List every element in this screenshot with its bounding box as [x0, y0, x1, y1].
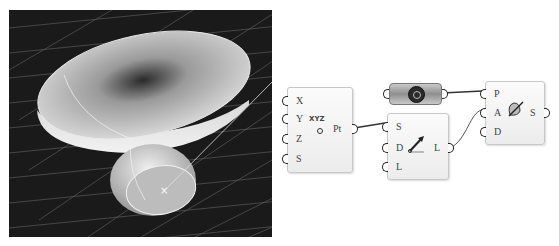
- input-grip-x[interactable]: [282, 96, 288, 106]
- input-grip-s[interactable]: [282, 154, 288, 164]
- hexagon-nut-icon: [408, 86, 425, 103]
- 3d-viewport[interactable]: ×: [9, 10, 272, 237]
- line-arrow-icon: [408, 134, 426, 154]
- revolution-surface-icon: [505, 99, 525, 119]
- port-a: A: [494, 108, 501, 118]
- viewport-scene: ×: [9, 10, 272, 237]
- port-l: L: [396, 162, 402, 172]
- input-grip-p[interactable]: [480, 89, 486, 99]
- input-grip-l[interactable]: [382, 162, 388, 172]
- port-d: D: [494, 127, 501, 137]
- cursor-marker: ×: [160, 185, 168, 196]
- geometry-param-node[interactable]: [389, 83, 442, 105]
- port-y: Y: [296, 114, 303, 124]
- input-grip-y[interactable]: [282, 114, 288, 124]
- construct-point-node[interactable]: X Y Z S XYZ Pt: [287, 87, 353, 173]
- input-grip-z[interactable]: [282, 134, 288, 144]
- line-sdl-node[interactable]: S D L L: [387, 113, 449, 180]
- input-grip-d[interactable]: [480, 127, 486, 137]
- revolve-node[interactable]: P A D S: [485, 81, 545, 145]
- input-grip[interactable]: [383, 89, 389, 99]
- xyz-point-icon: XYZ: [309, 114, 325, 124]
- input-grip-d[interactable]: [382, 143, 388, 153]
- port-p: P: [494, 89, 500, 99]
- port-z: Z: [296, 134, 302, 144]
- port-s: S: [296, 154, 302, 164]
- port-s-out: S: [530, 108, 536, 118]
- port-d: D: [396, 143, 403, 153]
- grasshopper-canvas[interactable]: X Y Z S XYZ Pt S D L L P: [275, 70, 559, 200]
- input-grip-s[interactable]: [382, 122, 388, 132]
- input-grip-a[interactable]: [480, 108, 486, 118]
- port-pt: Pt: [333, 124, 341, 134]
- point-dot-icon: [317, 128, 323, 134]
- port-x: X: [296, 96, 303, 106]
- port-s: S: [396, 122, 402, 132]
- port-l-out: L: [434, 143, 440, 153]
